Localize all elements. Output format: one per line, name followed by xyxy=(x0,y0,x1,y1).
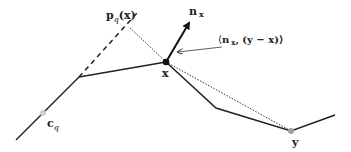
point-y xyxy=(288,128,294,134)
curve-segment-x-to-y xyxy=(166,62,335,131)
label-normal: nx xyxy=(189,5,204,19)
point-c-q xyxy=(40,110,46,116)
label-c-q: cq xyxy=(47,117,59,132)
label-x: x xyxy=(162,67,169,80)
normal-arrow xyxy=(166,23,189,62)
curve-segment-to-x xyxy=(79,62,166,77)
xy-dotted-line xyxy=(166,62,291,131)
tangent-dashed-extension xyxy=(79,13,137,77)
label-y: y xyxy=(291,136,299,149)
projection-dotted-line xyxy=(129,27,166,62)
label-p-q-x: pq(x) xyxy=(106,9,136,24)
inner-product-pointer-arrow xyxy=(178,47,222,52)
label-inner-product: ⟨nx, (y − x)⟩ xyxy=(218,34,284,47)
curve-segment-lower xyxy=(16,77,79,140)
point-x xyxy=(163,59,170,66)
diagram-canvas: x y cq pq(x) nx ⟨nx, (y − x)⟩ xyxy=(0,0,351,152)
